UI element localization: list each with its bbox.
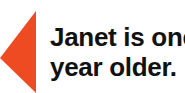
caption-text: Janet is one year older. (50, 22, 185, 82)
left-pointing-triangle-arrow-icon (0, 0, 40, 93)
caption-line-2: year older. (50, 52, 185, 82)
callout-annotation: Janet is one year older. (0, 0, 185, 93)
caption-line-1: Janet is one (50, 22, 185, 52)
